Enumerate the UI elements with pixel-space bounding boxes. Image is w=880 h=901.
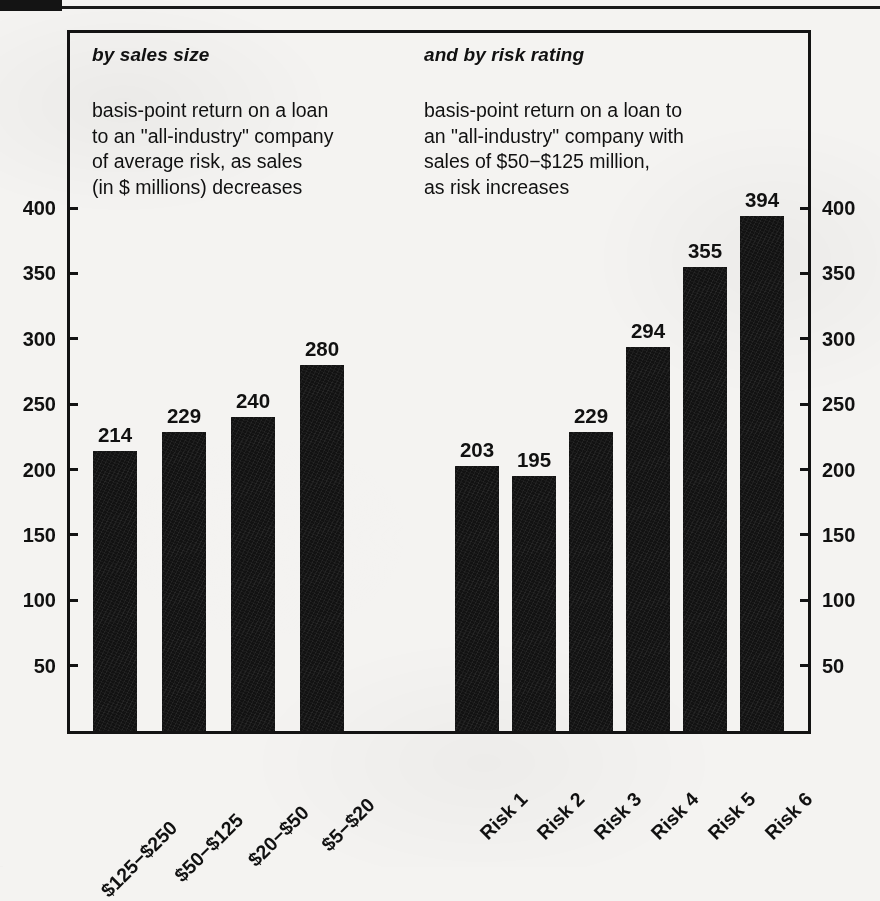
- bar: [93, 451, 137, 731]
- x-axis-category-label: $5−$20: [317, 793, 380, 856]
- bar: [626, 347, 670, 731]
- y-axis-label-left: 200: [23, 458, 56, 481]
- y-axis-tick-left: [67, 337, 78, 340]
- bar: [683, 267, 727, 731]
- y-axis-label-right: 150: [822, 523, 855, 546]
- bar: [231, 417, 275, 731]
- x-axis-category-label: $50−$125: [170, 809, 248, 887]
- y-axis-label-right: 100: [822, 589, 855, 612]
- y-axis-label-left: 300: [23, 327, 56, 350]
- panel-heading-sales-size: by sales size: [92, 44, 210, 66]
- y-axis-label-right: 400: [822, 197, 855, 220]
- bar: [740, 216, 784, 731]
- x-axis-category-label: $125−$250: [96, 816, 182, 901]
- panel-heading-risk-rating: and by risk rating: [424, 44, 584, 66]
- y-axis-label-left: 250: [23, 393, 56, 416]
- y-axis-label-left: 100: [23, 589, 56, 612]
- bar-value-label: 229: [167, 404, 201, 428]
- y-axis-tick-right: [800, 533, 811, 536]
- bar: [569, 432, 613, 731]
- x-axis-category-label: $20−$50: [243, 801, 313, 871]
- y-axis-tick-right: [800, 664, 811, 667]
- y-axis-tick-left: [67, 403, 78, 406]
- y-axis-label-right: 350: [822, 262, 855, 285]
- y-axis-tick-right: [800, 403, 811, 406]
- y-axis-tick-right: [800, 272, 811, 275]
- y-axis-label-left: 400: [23, 197, 56, 220]
- bar-value-label: 280: [305, 337, 339, 361]
- panel-description-sales-size: basis-point return on a loan to an "all-…: [92, 98, 333, 200]
- y-axis-tick-left: [67, 207, 78, 210]
- bar: [512, 476, 556, 731]
- y-axis-label-right: 250: [822, 393, 855, 416]
- bar-value-label: 214: [98, 423, 132, 447]
- y-axis-tick-left: [67, 599, 78, 602]
- bar-value-label: 229: [574, 404, 608, 428]
- bar-value-label: 240: [236, 389, 270, 413]
- page-header-block: [0, 0, 62, 11]
- bar-value-label: 203: [460, 438, 494, 462]
- y-axis-tick-right: [800, 337, 811, 340]
- page-top-rule: [18, 6, 880, 9]
- x-axis-category-label: Risk 1: [475, 788, 532, 845]
- y-axis-tick-right: [800, 207, 811, 210]
- y-axis-label-right: 300: [822, 327, 855, 350]
- y-axis-tick-left: [67, 468, 78, 471]
- bar-value-label: 355: [688, 239, 722, 263]
- bar-value-label: 294: [631, 319, 665, 343]
- y-axis-label-left: 50: [34, 654, 56, 677]
- y-axis-label-right: 50: [822, 654, 844, 677]
- y-axis-tick-left: [67, 272, 78, 275]
- bar: [455, 466, 499, 731]
- bar-value-label: 394: [745, 188, 779, 212]
- bar-value-label: 195: [517, 448, 551, 472]
- bar: [300, 365, 344, 731]
- y-axis-tick-right: [800, 599, 811, 602]
- y-axis-tick-left: [67, 533, 78, 536]
- x-axis-category-label: Risk 4: [646, 788, 703, 845]
- panel-description-risk-rating: basis-point return on a loan to an "all-…: [424, 98, 684, 200]
- y-axis-label-left: 350: [23, 262, 56, 285]
- y-axis-label-right: 200: [822, 458, 855, 481]
- y-axis-tick-right: [800, 468, 811, 471]
- bar: [162, 432, 206, 731]
- x-axis-category-label: Risk 3: [589, 788, 646, 845]
- x-axis-category-label: Risk 5: [703, 788, 760, 845]
- y-axis-tick-left: [67, 664, 78, 667]
- x-axis-category-label: Risk 2: [532, 788, 589, 845]
- y-axis-label-left: 150: [23, 523, 56, 546]
- x-axis-category-label: Risk 6: [760, 788, 817, 845]
